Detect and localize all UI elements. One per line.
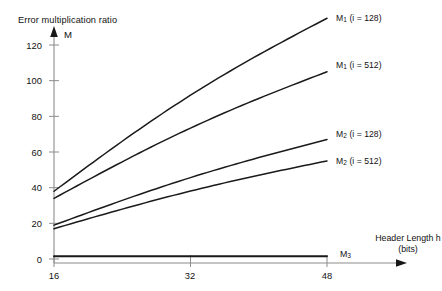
series-line-M1_i128 xyxy=(54,18,327,191)
x-tick-label-16: 16 xyxy=(41,271,67,280)
x-tick-label-32: 32 xyxy=(177,271,203,280)
series-line-M2_i512 xyxy=(54,161,327,229)
series-label-m1-i128-tail: (i = 128) xyxy=(347,13,382,23)
series-label-m2-i512: M2 (i = 512) xyxy=(336,157,382,167)
series-label-m2-i512-tail: (i = 512) xyxy=(347,156,382,166)
y-tick-label-0: 0 xyxy=(16,255,42,264)
y-axis-symbol: M xyxy=(64,30,72,40)
series-label-m3-sub: 3 xyxy=(347,252,351,259)
chart-title: Error multiplication ratio xyxy=(18,16,117,25)
y-tick-label-120: 120 xyxy=(16,41,42,50)
y-tick-label-40: 40 xyxy=(16,183,42,192)
y-tick-label-20: 20 xyxy=(16,219,42,228)
y-tick-label-60: 60 xyxy=(16,148,42,157)
series-label-m2-i128: M2 (i = 128) xyxy=(336,130,382,140)
chart-figure: Error multiplication ratio M 120 100 80 … xyxy=(0,0,442,291)
x-axis-arrowhead xyxy=(396,259,407,267)
x-axis-title-line1: Header Length h xyxy=(375,233,441,243)
series-line-M2_i128 xyxy=(54,140,327,226)
y-tick-label-100: 100 xyxy=(16,76,42,85)
x-axis-title: Header Length h (bits) xyxy=(358,233,442,255)
series-line-M1_i512 xyxy=(54,72,327,199)
x-tick-label-48: 48 xyxy=(314,271,340,280)
x-axis-title-line2: (bits) xyxy=(398,244,418,254)
series-label-m2-i128-tail: (i = 128) xyxy=(347,129,382,139)
y-tick-label-80: 80 xyxy=(16,112,42,121)
series-label-m1-i512: M1 (i = 512) xyxy=(336,61,382,71)
series-label-m1-i128: M1 (i = 128) xyxy=(336,14,382,24)
series-label-m1-i512-tail: (i = 512) xyxy=(347,60,382,70)
series-label-m3: M3 xyxy=(340,250,351,260)
x-axis xyxy=(54,259,407,267)
series-lines-group xyxy=(54,18,327,256)
y-axis-arrowhead xyxy=(50,26,58,37)
